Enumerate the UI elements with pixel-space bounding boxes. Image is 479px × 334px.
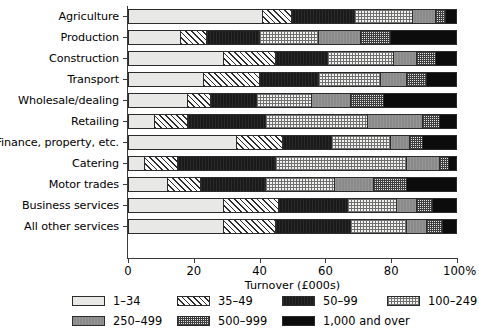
bar-segment	[394, 52, 417, 65]
stacked-bar	[128, 156, 457, 171]
x-axis-tick	[457, 259, 458, 263]
legend-swatch-icon	[177, 316, 210, 326]
bar-segment	[440, 157, 450, 170]
bar-segment	[433, 199, 456, 212]
bar-segment	[276, 52, 328, 65]
legend-item[interactable]: 1–34	[72, 291, 140, 311]
legend-swatch-icon	[387, 296, 420, 306]
bar-row: Production	[128, 27, 457, 48]
bar-segment	[332, 136, 391, 149]
category-label: Finance, property, etc.	[0, 132, 128, 153]
bar-segment	[423, 115, 439, 128]
legend-swatch-icon	[72, 316, 105, 326]
bar-segment	[129, 31, 181, 44]
x-axis-tick	[128, 259, 129, 263]
bar-segment	[276, 157, 407, 170]
bar-segment	[384, 94, 456, 107]
category-label: Catering	[72, 153, 128, 174]
category-label: Construction	[49, 48, 128, 69]
bar-segment	[237, 136, 283, 149]
legend-swatch-icon	[177, 296, 210, 306]
legend-item[interactable]: 100–249	[387, 291, 477, 311]
bar-row: Catering	[128, 153, 457, 174]
legend-item[interactable]: 1,000 and over	[282, 311, 410, 331]
bar-segment	[129, 73, 204, 86]
stacked-bar-chart: AgricultureProductionConstructionTranspo…	[0, 0, 479, 334]
bar-segment	[129, 10, 263, 23]
bar-segment	[204, 73, 260, 86]
bar-row: Construction	[128, 48, 457, 69]
bar-segment	[335, 178, 374, 191]
bar-segment	[178, 157, 276, 170]
bar-segment	[427, 220, 443, 233]
legend-item[interactable]: 35–49	[177, 291, 253, 311]
bar-row: All other services	[128, 216, 457, 237]
bar-segment	[145, 157, 178, 170]
bar-segment	[129, 178, 168, 191]
bar-segment	[188, 115, 266, 128]
category-label: Business services	[22, 195, 128, 216]
bar-segment	[260, 31, 319, 44]
x-axis-ticks: 020406080100%	[128, 259, 457, 279]
bar-row: Retailing	[128, 111, 457, 132]
bar-rows: AgricultureProductionConstructionTranspo…	[128, 6, 457, 237]
stacked-bar	[128, 9, 457, 24]
bar-segment	[319, 73, 381, 86]
bar-segment	[129, 52, 224, 65]
legend-item[interactable]: 500–999	[177, 311, 267, 331]
x-axis-tick-label: 80	[384, 264, 399, 278]
bar-segment	[292, 10, 354, 23]
x-axis-tick-label: 40	[252, 264, 267, 278]
bar-row: Agriculture	[128, 6, 457, 27]
bar-segment	[368, 115, 424, 128]
bar-row: Transport	[128, 69, 457, 90]
bar-segment	[417, 199, 433, 212]
bar-segment	[155, 115, 188, 128]
bar-segment	[423, 136, 456, 149]
bar-segment	[129, 220, 224, 233]
bar-row: Motor trades	[128, 174, 457, 195]
legend-label: 50–99	[323, 294, 358, 308]
bar-segment	[407, 73, 427, 86]
bar-segment	[224, 220, 276, 233]
legend-label: 500–999	[218, 314, 267, 328]
legend-label: 1,000 and over	[323, 314, 410, 328]
bar-segment	[319, 31, 362, 44]
category-label: Retailing	[71, 111, 128, 132]
bar-segment	[129, 199, 224, 212]
legend-item[interactable]: 50–99	[282, 291, 358, 311]
bar-row: Finance, property, etc.	[128, 132, 457, 153]
bar-segment	[129, 136, 237, 149]
x-axis-tick	[391, 259, 392, 263]
stacked-bar	[128, 114, 457, 129]
bar-segment	[188, 94, 211, 107]
plot-area: AgricultureProductionConstructionTranspo…	[0, 6, 479, 274]
bar-segment	[260, 73, 319, 86]
stacked-bar	[128, 219, 457, 234]
bar-segment	[224, 52, 276, 65]
bar-segment	[351, 220, 407, 233]
bar-row: Business services	[128, 195, 457, 216]
legend-item[interactable]: 250–499	[72, 311, 162, 331]
bar-segment	[391, 136, 411, 149]
bar-segment	[436, 52, 456, 65]
stacked-bar	[128, 72, 457, 87]
bar-segment	[417, 52, 437, 65]
legend-label: 1–34	[113, 294, 140, 308]
bar-segment	[276, 220, 351, 233]
bar-segment	[436, 10, 446, 23]
bar-segment	[397, 199, 417, 212]
bar-segment	[449, 157, 456, 170]
category-label: Production	[60, 27, 128, 48]
x-axis-tick-label: 0	[124, 264, 131, 278]
bar-segment	[266, 178, 335, 191]
legend-swatch-icon	[72, 296, 105, 306]
x-axis-tick-label: 60	[318, 264, 333, 278]
bar-segment	[351, 94, 384, 107]
legend-row-second: 250–499500–9991,000 and over	[72, 311, 472, 331]
bar-segment	[413, 10, 436, 23]
stacked-bar	[128, 30, 457, 45]
bar-segment	[211, 94, 257, 107]
category-label: All other services	[24, 216, 128, 237]
bar-segment	[257, 94, 313, 107]
